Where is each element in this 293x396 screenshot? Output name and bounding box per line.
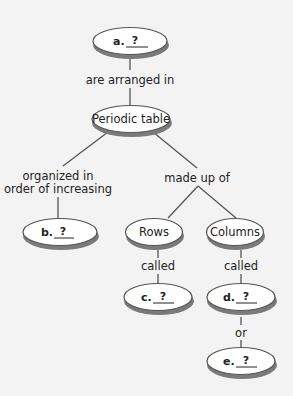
link-label-or: or bbox=[235, 326, 247, 340]
node-d-blank: ? bbox=[243, 290, 249, 303]
node-b: b. ? bbox=[23, 219, 99, 251]
node-a: a. ? bbox=[93, 28, 169, 60]
node-rows-label: Rows bbox=[139, 225, 169, 239]
link-label-are-arranged-in: are arranged in bbox=[86, 73, 175, 87]
node-c-blank: ? bbox=[160, 290, 166, 303]
node-b-blank: ? bbox=[60, 225, 66, 238]
link-label-columns-called: called bbox=[224, 259, 258, 273]
node-d-prefix: d. bbox=[223, 291, 235, 304]
node-e: e. ? bbox=[207, 348, 277, 380]
node-e-blank: ? bbox=[243, 354, 249, 367]
node-c-prefix: c. bbox=[141, 291, 152, 304]
link-label-organized-in: organized in bbox=[23, 169, 94, 183]
node-c: c. ? bbox=[124, 284, 194, 316]
node-periodic-table-label: Periodic table bbox=[92, 112, 170, 126]
node-columns: Columns bbox=[207, 219, 266, 251]
link-label-order-of-increasing: order of increasing bbox=[4, 182, 112, 196]
node-b-prefix: b. bbox=[41, 226, 53, 239]
node-a-prefix: a. bbox=[113, 35, 125, 48]
node-rows: Rows bbox=[126, 219, 185, 251]
concept-map: a. ? are arranged in Periodic table orga… bbox=[0, 0, 293, 396]
link-label-rows-called: called bbox=[141, 259, 175, 273]
node-a-blank: ? bbox=[132, 34, 138, 47]
node-e-prefix: e. bbox=[223, 355, 235, 368]
node-columns-label: Columns bbox=[210, 225, 260, 239]
node-periodic-table: Periodic table bbox=[92, 106, 172, 138]
link-label-made-up-of: made up of bbox=[164, 171, 231, 185]
node-d: d. ? bbox=[207, 284, 277, 316]
